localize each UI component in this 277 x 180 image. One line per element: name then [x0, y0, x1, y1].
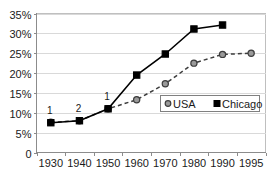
annotation-label: 1	[104, 91, 110, 102]
legend-label-chicago[interactable]: Chicago	[222, 98, 262, 110]
chart-legend[interactable]: USAChicago	[161, 96, 263, 112]
data-point-marker	[162, 81, 168, 87]
x-tick-label: 1970	[153, 157, 177, 169]
data-point-marker	[219, 22, 225, 28]
data-point-marker	[219, 51, 225, 57]
x-tick-label: 1950	[96, 157, 120, 169]
annotation-label: 1	[47, 105, 53, 116]
x-tick-label: 1930	[39, 157, 63, 169]
data-point-marker	[162, 51, 168, 57]
x-tick-label: 1990	[210, 157, 234, 169]
data-point-marker	[191, 60, 197, 66]
x-axis-tick-labels: 19301940195019601970198019901995	[39, 157, 264, 169]
y-tick-label: 30%	[9, 28, 31, 40]
y-tick-label: 35%	[9, 9, 31, 21]
plot-frame	[37, 14, 266, 153]
x-tick-label: 1960	[124, 157, 148, 169]
circle-marker-icon	[165, 101, 171, 107]
gridlines	[37, 15, 266, 134]
y-tick-label: 15%	[9, 88, 31, 100]
y-tick-label: 25%	[9, 48, 31, 60]
data-point-marker	[105, 106, 111, 112]
data-point-marker	[134, 97, 140, 103]
series-usa	[48, 50, 255, 125]
data-point-marker	[248, 50, 254, 56]
chart-container: 35%30%25%20%15%10%5%0 193019401950196019…	[0, 0, 277, 180]
square-marker-icon	[214, 101, 220, 107]
y-tick-label: 0	[25, 148, 31, 160]
data-point-marker	[48, 120, 54, 126]
annotation-label: 2	[76, 103, 82, 114]
line-chart: 35%30%25%20%15%10%5%0 193019401950196019…	[0, 0, 277, 180]
data-point-marker	[133, 72, 139, 78]
y-tick-label: 20%	[9, 68, 31, 80]
y-axis-tick-labels: 35%30%25%20%15%10%5%0	[9, 9, 31, 160]
legend-label-usa[interactable]: USA	[173, 98, 196, 110]
data-point-marker	[191, 26, 197, 32]
data-point-marker	[76, 118, 82, 124]
y-tick-label: 5%	[16, 128, 32, 140]
x-tick-label: 1995	[239, 157, 263, 169]
y-tick-label: 10%	[9, 108, 31, 120]
x-tick-label: 1980	[182, 157, 206, 169]
x-tick-label: 1940	[67, 157, 91, 169]
